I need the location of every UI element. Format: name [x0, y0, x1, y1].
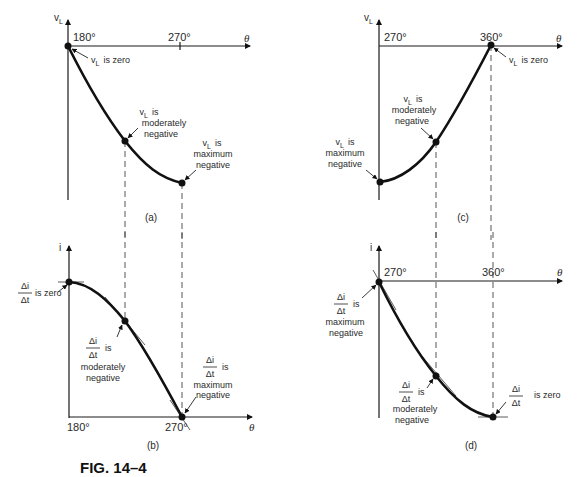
point-maximum: [377, 179, 384, 186]
panel-label: (a): [145, 212, 157, 223]
theta-label: θ: [244, 32, 250, 44]
svg-text:Δi: Δi: [402, 380, 410, 390]
svg-text:is zero: is zero: [35, 288, 62, 298]
svg-text:Δi: Δi: [337, 292, 345, 302]
svg-text:moderately: moderately: [393, 404, 438, 414]
x-tick-label: 360°: [480, 31, 503, 43]
theta-label: θ: [557, 266, 563, 278]
svg-text:negative: negative: [328, 159, 362, 169]
svg-text:negative: negative: [196, 390, 230, 400]
point-maximum: [376, 279, 383, 286]
svg-text:negative: negative: [329, 328, 363, 338]
svg-text:Δt: Δt: [337, 306, 346, 316]
annotation-vl-maximum: vLis maximum negative: [325, 137, 364, 169]
svg-text:is: is: [105, 343, 112, 353]
y-axis-label: vL: [54, 12, 63, 25]
annotation-arrow: [366, 170, 377, 179]
svg-text:Δi: Δi: [206, 355, 214, 365]
panel-d: i 270° 360° θ Δi Δt is maximum negative …: [325, 232, 563, 451]
svg-text:maximum: maximum: [193, 149, 232, 159]
panel-label: (c): [457, 212, 469, 223]
svg-text:moderately: moderately: [392, 105, 437, 115]
panel-b: i 180° 270° θ Δi Δt is zero Δi Δt is mod…: [18, 232, 255, 451]
svg-text:is zero: is zero: [534, 390, 561, 400]
svg-text:Δt: Δt: [21, 295, 30, 305]
annotation-arrow: [494, 48, 506, 57]
svg-text:maximum: maximum: [325, 317, 364, 327]
svg-text:negative: negative: [144, 129, 178, 139]
y-axis-label: vL: [364, 12, 373, 25]
annotation-didt-moderate: Δi Δt is moderately negative: [393, 380, 438, 425]
annotation-arrow: [185, 170, 196, 180]
annotation-didt-maximum: Δi Δt is maximum negative: [193, 355, 232, 400]
point-moderate: [433, 373, 440, 380]
svg-text:is: is: [353, 299, 360, 309]
x-tick-label: 360°: [482, 266, 505, 278]
annotation-arrow: [427, 379, 433, 388]
svg-text:maximum: maximum: [325, 148, 364, 158]
annotation-arrow: [128, 128, 138, 138]
point-zero: [65, 43, 72, 50]
svg-text:moderately: moderately: [81, 362, 126, 372]
figure-caption: FIG. 14–4: [80, 459, 147, 476]
theta-label: θ: [556, 32, 562, 44]
panel-a: vL 180° 270° θ vLis zero vLis moderately…: [54, 12, 250, 240]
annotation-arrow: [496, 402, 506, 414]
svg-text:maximum: maximum: [193, 380, 232, 390]
annotation-didt-zero: Δi Δt is zero: [18, 281, 62, 305]
annotation-didt-maximum: Δi Δt is maximum negative: [325, 292, 364, 338]
annotation-vl-zero: vLis zero: [91, 55, 130, 67]
svg-text:negative: negative: [86, 373, 120, 383]
point-moderate: [122, 138, 129, 145]
annotation-arrow: [185, 397, 196, 413]
svg-text:Δt: Δt: [512, 398, 521, 408]
svg-text:Δt: Δt: [402, 394, 411, 404]
point-maximum: [179, 414, 186, 421]
x-tick-label: 270°: [165, 421, 188, 433]
annotation-vl-moderate: vLis moderately negative: [140, 107, 187, 139]
theta-label: θ: [249, 421, 255, 433]
point-zero: [490, 414, 497, 421]
svg-text:negative: negative: [395, 415, 429, 425]
annotation-arrow: [421, 128, 433, 139]
annotation-vl-moderate: vLis moderately negative: [392, 94, 437, 126]
point-zero: [488, 42, 495, 49]
panel-label: (d): [465, 440, 477, 451]
panel-c: vL 270° 360° θ vLis zero vLis moderately…: [325, 12, 562, 240]
svg-text:Δi: Δi: [89, 336, 97, 346]
svg-text:negative: negative: [395, 116, 429, 126]
svg-text:is: is: [418, 387, 425, 397]
point-maximum: [179, 180, 186, 187]
svg-text:Δi: Δi: [21, 281, 29, 291]
point-moderate: [122, 318, 129, 325]
svg-text:Δi: Δi: [512, 384, 520, 394]
point-zero: [66, 279, 73, 286]
x-tick-label: 270°: [384, 31, 407, 43]
annotation-vl-maximum: vLis maximum negative: [193, 138, 232, 170]
y-axis-label: i: [370, 242, 372, 253]
y-axis-label: i: [59, 242, 61, 253]
x-tick-label: 270°: [168, 31, 191, 43]
current-curve: [69, 282, 182, 417]
x-tick-label: 270°: [384, 266, 407, 278]
svg-text:is: is: [222, 362, 229, 372]
x-tick-label: 180°: [73, 31, 96, 43]
svg-text:Δt: Δt: [89, 350, 98, 360]
panel-label: (b): [147, 440, 159, 451]
point-moderate: [433, 139, 440, 146]
annotation-arrow: [362, 285, 376, 298]
annotation-arrow: [117, 325, 122, 337]
inductor-voltage-current-diagram: vL 180° 270° θ vLis zero vLis moderately…: [0, 0, 579, 477]
annotation-didt-moderate: Δi Δt is moderately negative: [81, 336, 126, 383]
svg-text:Δt: Δt: [206, 369, 215, 379]
x-tick-label: 180°: [67, 421, 90, 433]
svg-text:negative: negative: [196, 160, 230, 170]
svg-text:moderately: moderately: [142, 118, 187, 128]
annotation-didt-zero: Δi Δt is zero: [509, 384, 561, 408]
annotation-vl-zero: vLis zero: [509, 55, 548, 67]
